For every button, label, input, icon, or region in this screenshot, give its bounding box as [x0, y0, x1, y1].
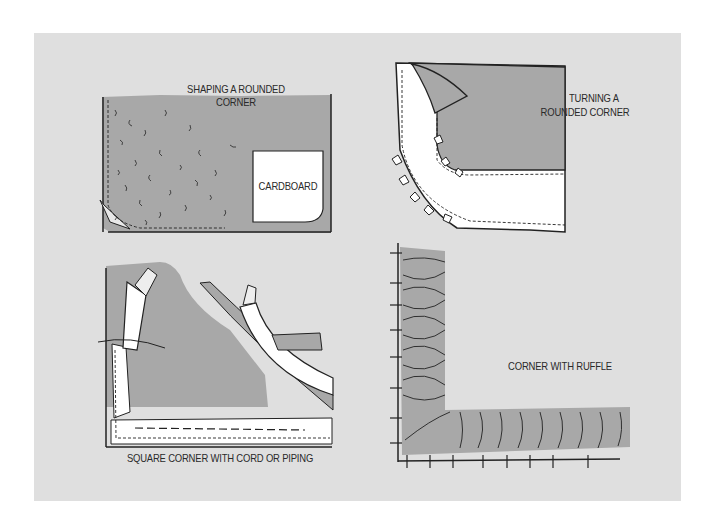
caption-square-corner: SQUARE CORNER WITH CORD OR PIPING	[117, 452, 324, 465]
caption-turning-line-2: ROUNDED CORNER	[531, 106, 639, 119]
sewing-corners-illustration	[0, 0, 715, 527]
square-corner-drawing	[98, 262, 333, 447]
caption-turning-line-1: TURNING A	[569, 92, 641, 105]
cardboard-label: CARDBOARD	[257, 180, 320, 193]
shaping-corner-drawing	[100, 94, 331, 233]
caption-shaping-line-2: CORNER	[173, 96, 299, 109]
caption-shaping-line-1: SHAPING A ROUNDED	[173, 83, 299, 96]
turning-corner-drawing	[392, 63, 565, 232]
ruffle-corner-drawing	[390, 243, 630, 468]
caption-ruffle-corner: CORNER WITH RUFFLE	[506, 360, 614, 373]
